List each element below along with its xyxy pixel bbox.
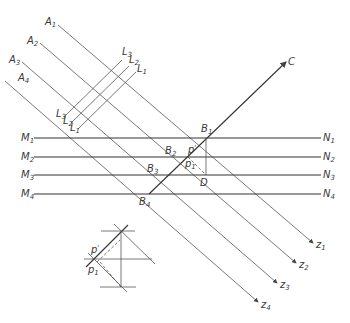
label-b2: B2	[165, 145, 177, 158]
label-c: C	[288, 56, 295, 67]
label-n4: N4	[323, 188, 335, 201]
inset-label-p-prime: p'	[90, 244, 99, 255]
label-b3: B3	[147, 163, 158, 176]
diagram-canvas: A1 A2 A3 A4 z1 z2 z3 z4 M1 M2 M3 M4 N1 N…	[0, 0, 350, 323]
inset-dash-2	[100, 262, 121, 287]
ray-b4-c	[149, 62, 286, 194]
inset-diagram	[84, 224, 155, 292]
label-n1: N1	[323, 132, 335, 145]
l2-line	[71, 66, 129, 123]
label-m2: M2	[21, 151, 35, 164]
label-a1: A1	[44, 16, 56, 29]
label-a2: A2	[26, 35, 39, 48]
label-b1: B1	[201, 123, 212, 136]
label-z2: z2	[298, 259, 309, 272]
label-l1-upper: L1	[137, 63, 147, 76]
label-m3: M3	[21, 169, 34, 182]
inset-label-p1: p1	[87, 264, 99, 277]
label-m4: M4	[21, 188, 34, 201]
label-a3: A3	[8, 54, 20, 67]
label-d: D	[200, 177, 208, 188]
diagonal-rays	[5, 25, 313, 302]
l-markers	[64, 60, 136, 129]
ray-a4-z4	[5, 81, 258, 302]
label-l1-lower: L1	[70, 122, 80, 135]
label-b4: B4	[139, 196, 150, 209]
label-z1: z1	[315, 239, 326, 252]
l1-line	[78, 72, 136, 129]
label-p1: p1	[184, 158, 196, 171]
l3-line	[64, 60, 122, 117]
inset-slant-top	[114, 224, 155, 264]
label-n3: N3	[323, 169, 335, 182]
label-m1: M1	[21, 132, 34, 145]
label-n2: N2	[323, 151, 335, 164]
label-p-prime: p'	[187, 144, 196, 155]
label-z4: z4	[260, 299, 271, 312]
label-z3: z3	[279, 279, 290, 292]
ray-a1-z1	[58, 25, 313, 243]
label-a4: A4	[17, 72, 29, 85]
